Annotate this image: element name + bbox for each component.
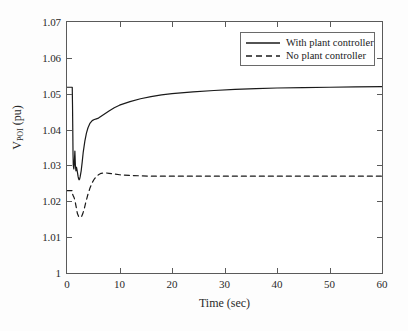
y-tick-mark [377,94,382,95]
x-tick-mark [330,268,331,273]
y-tick-label: 1.03 [42,159,61,171]
y-tick-mark [67,130,72,131]
chart-figure: 11.011.021.031.041.051.061.07 VPOI (pu) … [0,0,408,331]
y-tick-label: 1.05 [42,88,61,100]
y-tick-mark [67,94,72,95]
y-tick-label: 1.06 [42,52,61,64]
y-tick-label: 1 [56,267,61,279]
y-tick-mark [377,165,382,166]
y-tick-label: 1.01 [42,231,61,243]
y-tick-mark [377,237,382,238]
x-tick-label: 50 [324,278,335,290]
legend-line-sample-dashed [245,51,281,61]
y-tick-mark [377,201,382,202]
legend-line-sample-solid [245,38,281,48]
y-tick-mark [377,130,382,131]
legend-item-with-plant-controller: With plant controller [241,36,374,49]
series-line-2 [67,173,382,217]
y-tick-label: 1.02 [42,195,61,207]
y-axis-title-subscript: POI [16,128,25,141]
y-tick-label: 1.07 [42,16,61,28]
y-axis-title: VPOI (pu) [10,68,25,188]
x-tick-mark [120,22,121,27]
x-tick-mark [225,22,226,27]
y-tick-label: 1.04 [42,124,61,136]
x-tick-mark [277,268,278,273]
x-tick-label: 40 [272,278,283,290]
x-tick-mark [277,22,278,27]
legend-label-with-plant-controller: With plant controller [286,37,374,48]
y-tick-mark [67,201,72,202]
y-tick-mark [377,58,382,59]
x-tick-mark [172,268,173,273]
y-tick-mark [67,58,72,59]
x-tick-label: 10 [114,278,125,290]
x-tick-mark [120,268,121,273]
x-axis-title: Time (sec) [66,296,383,311]
y-tick-mark [67,237,72,238]
x-tick-label: 60 [377,278,388,290]
legend-item-no-plant-controller: No plant controller [241,49,374,62]
series-line-1 [67,87,382,180]
legend-label-no-plant-controller: No plant controller [286,50,366,61]
y-tick-mark [67,165,72,166]
y-axis-title-main: V [10,141,24,150]
x-tick-mark [225,268,226,273]
y-axis-title-units: (pu) [10,105,24,128]
x-tick-mark [172,22,173,27]
x-tick-label: 20 [167,278,178,290]
x-tick-label: 30 [219,278,230,290]
chart-legend: With plant controller No plant controlle… [240,32,375,66]
x-tick-mark [330,22,331,27]
x-tick-label: 0 [64,278,70,290]
